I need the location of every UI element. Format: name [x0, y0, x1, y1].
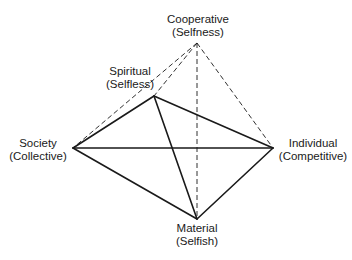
node-label-individual: Individual (Competitive): [275, 137, 351, 163]
node-label-cooperative: Cooperative (Selfness): [162, 13, 234, 39]
node-title-individual: Individual: [275, 137, 351, 150]
pyramid-diagram: [0, 0, 352, 260]
node-title-cooperative: Cooperative: [162, 13, 234, 26]
node-label-material: Material (Selfish): [167, 222, 227, 248]
node-subtitle-material: (Selfish): [167, 235, 227, 248]
node-subtitle-cooperative: (Selfness): [162, 26, 234, 39]
node-subtitle-spiritual: (Selfless): [105, 78, 155, 91]
edge-society-material: [73, 148, 197, 219]
edge-society-spiritual: [73, 96, 154, 148]
node-label-spiritual: Spiritual (Selfless): [105, 65, 155, 91]
node-label-society: Society (Collective): [4, 137, 72, 163]
node-subtitle-society: (Collective): [4, 150, 72, 163]
node-title-material: Material: [167, 222, 227, 235]
dashed-edge-cooperative-society: [73, 43, 197, 148]
node-title-spiritual: Spiritual: [105, 65, 155, 78]
edge-spiritual-individual: [154, 96, 273, 148]
node-title-society: Society: [4, 137, 72, 150]
dashed-edge-cooperative-spiritual: [154, 43, 197, 96]
edge-spiritual-material: [154, 96, 197, 219]
node-subtitle-individual: (Competitive): [275, 150, 351, 163]
edge-individual-material: [197, 148, 273, 219]
